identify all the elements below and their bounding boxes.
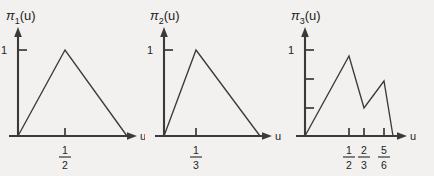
chart-1-x-axis-arrow (127, 132, 137, 140)
chart-2-curve (164, 50, 260, 136)
chart-2-title: π2(u) (150, 8, 180, 26)
chart-2-title-symbol: π (150, 8, 159, 23)
chart-2-x-tick-label-denominator: 3 (193, 159, 199, 171)
chart-3-title: π3(u) (291, 8, 321, 26)
figure-container: π1(u) 1 1 2 u π2(u) (0, 0, 434, 176)
chart-3-x-axis-label: u (410, 130, 416, 142)
chart-3-title-argument: (u) (305, 8, 321, 23)
chart-1-y-tick-label-1: 1 (1, 44, 7, 56)
chart-3-svg: π3(u) 1 1 2 2 3 5 6 u (287, 0, 434, 176)
chart-panel-3: π3(u) 1 1 2 2 3 5 6 u (287, 0, 434, 176)
chart-1-curve (18, 50, 127, 136)
chart-3-title-symbol: π (291, 8, 300, 23)
chart-1-svg: π1(u) 1 1 2 u (0, 0, 145, 176)
chart-2-y-tick-label-1: 1 (147, 44, 153, 56)
chart-2-svg: π2(u) 1 1 3 u (142, 0, 287, 176)
chart-2-title-argument: (u) (164, 8, 180, 23)
chart-3-x-tick-label-3-denominator: 6 (381, 159, 387, 171)
chart-3-x-tick-label-1-denominator: 2 (346, 159, 352, 171)
chart-3-x-tick-label-2-numerator: 2 (361, 144, 367, 156)
chart-3-curve (305, 56, 393, 136)
chart-panel-2: π2(u) 1 1 3 u (142, 0, 287, 176)
chart-1-title: π1(u) (6, 8, 36, 26)
chart-1-title-argument: (u) (20, 8, 36, 23)
chart-1-y-axis-arrow (14, 27, 22, 37)
chart-2-y-axis-arrow (160, 27, 168, 37)
chart-2-x-axis-arrow (262, 132, 272, 140)
chart-1-x-tick-label-numerator: 1 (62, 144, 68, 156)
chart-3-y-tick-label-1: 1 (288, 44, 294, 56)
chart-3-x-tick-label-3-numerator: 5 (381, 144, 387, 156)
chart-panel-1: π1(u) 1 1 2 u (0, 0, 145, 176)
chart-3-x-tick-label-1-numerator: 1 (346, 144, 352, 156)
chart-1-title-symbol: π (6, 8, 15, 23)
chart-2-x-axis-label: u (275, 130, 281, 142)
chart-3-x-tick-label-2-denominator: 3 (361, 159, 367, 171)
chart-1-x-tick-label-denominator: 2 (62, 159, 68, 171)
chart-2-x-tick-label-numerator: 1 (193, 144, 199, 156)
chart-3-x-axis-arrow (397, 132, 407, 140)
chart-3-y-axis-arrow (301, 27, 309, 37)
